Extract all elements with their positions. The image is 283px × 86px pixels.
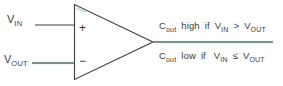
- ink-mark: [76, 8, 86, 12]
- output-condition-high: CouthighifVIN>VOUT: [159, 21, 266, 31]
- vout-label: VOUT: [4, 54, 28, 65]
- cout-low-rhs-subscript: OUT: [249, 56, 264, 63]
- cout-high-operator: >: [233, 20, 239, 31]
- cout-high-state: high: [181, 20, 199, 31]
- vout-subscript: OUT: [11, 59, 27, 68]
- cout-low-symbol: C: [159, 50, 166, 61]
- cout-high-symbol: C: [159, 20, 166, 31]
- cout-high-rhs-subscript: OUT: [251, 26, 266, 33]
- comparator-triangle-symbol: [75, 5, 154, 80]
- cout-low-conditional: if: [201, 50, 206, 61]
- vin-subscript: IN: [14, 19, 22, 28]
- cout-high-lhs-subscript: IN: [221, 26, 228, 33]
- output-condition-low: CoutlowifVIN≤VOUT: [159, 51, 265, 61]
- cout-high-rhs-symbol: V: [244, 20, 250, 31]
- cout-low-operator: ≤: [233, 50, 238, 61]
- schematic-lines: [0, 0, 283, 86]
- cout-high-conditional: if: [205, 20, 210, 31]
- inverting-terminal-sign: −: [79, 55, 86, 67]
- cout-low-subscript: out: [166, 56, 176, 63]
- vin-label: VIN: [7, 14, 22, 25]
- cout-low-state: low: [181, 50, 196, 61]
- noninverting-terminal-sign: +: [79, 22, 86, 34]
- cout-low-lhs-subscript: IN: [220, 56, 227, 63]
- cout-high-subscript: out: [166, 26, 176, 33]
- comparator-diagram: + − VIN VOUT CouthighifVIN>VOUT Coutlowi…: [0, 0, 283, 86]
